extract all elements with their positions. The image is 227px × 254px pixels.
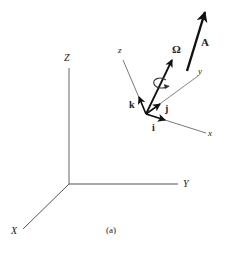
i-label: i <box>152 122 155 133</box>
Z-axis-label: Z <box>64 52 70 63</box>
x-axis-label: x <box>207 128 212 138</box>
diagram-canvas: Z Y X z y x k j i Ω A (a) <box>0 0 227 254</box>
i-unit-vector <box>146 114 165 120</box>
figure-caption: (a) <box>106 225 116 235</box>
moving-frame: z y x k j i <box>117 45 212 138</box>
angular-velocity: Ω <box>146 43 181 114</box>
y-axis-label: y <box>197 66 202 76</box>
vector-A: A <box>187 12 209 71</box>
A-label: A <box>201 36 209 48</box>
k-unit-vector <box>139 97 146 114</box>
j-label: j <box>164 103 168 114</box>
X-axis-label: X <box>10 225 18 236</box>
z-axis-label: z <box>117 45 122 55</box>
Y-axis-label: Y <box>183 178 190 189</box>
omega-label: Ω <box>172 43 181 55</box>
X-axis <box>23 184 69 229</box>
k-label: k <box>129 99 135 110</box>
